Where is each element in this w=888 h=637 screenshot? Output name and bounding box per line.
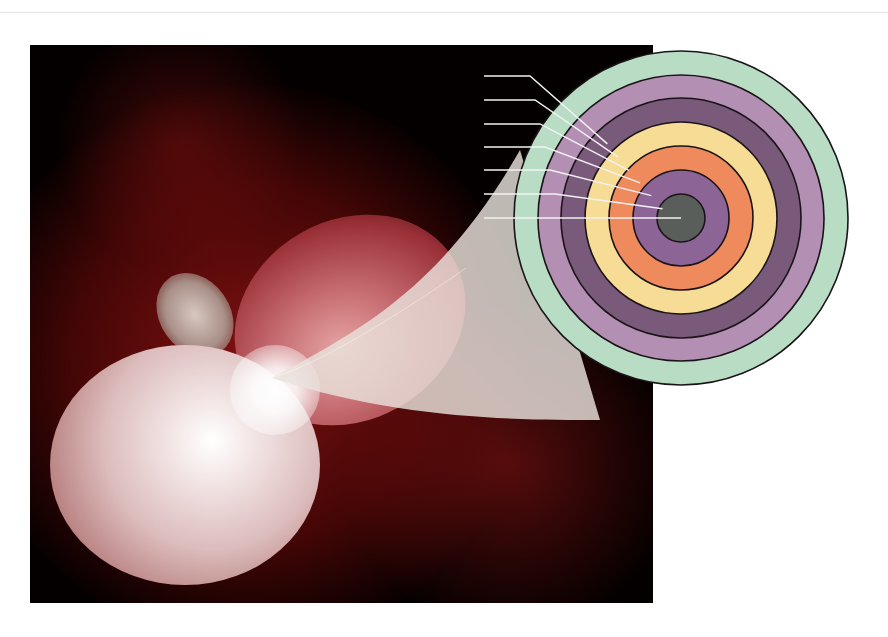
onion-diagram-overlay [0,0,888,637]
